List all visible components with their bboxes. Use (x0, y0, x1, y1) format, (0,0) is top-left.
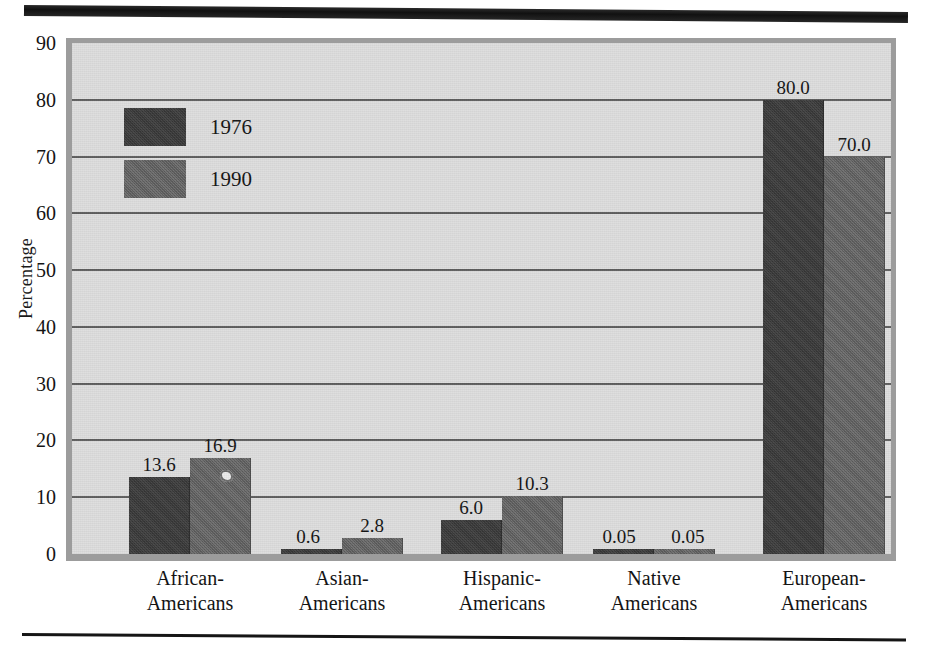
bar-value-label: 2.8 (360, 516, 384, 535)
legend-label-1990: 1990 (210, 169, 252, 190)
category-label-line-1: Asian- (252, 566, 432, 591)
legend-swatch-1976 (124, 108, 186, 146)
bar: 6.0 (441, 520, 502, 554)
category-label-line-1: European- (734, 566, 914, 591)
bar: 13.6 (129, 477, 190, 554)
bar: 10.3 (502, 496, 563, 554)
y-axis-tick-label: 80 (4, 90, 56, 110)
bar: 0.05 (593, 549, 654, 554)
plot-area: 13.616.90.62.86.010.30.050.0580.070.0 19… (72, 43, 891, 554)
y-axis-tick-label: 40 (4, 317, 56, 337)
bar: 70.0 (824, 157, 885, 554)
x-axis-category-label: Asian-Americans (252, 566, 432, 616)
category-label-line-1: Native (564, 566, 744, 591)
y-axis-tick-label: 60 (4, 203, 56, 223)
x-axis-category-labels: African-AmericansAsian-AmericansHispanic… (66, 566, 896, 626)
legend-swatch-1990 (124, 160, 186, 198)
legend-item-1976: 1976 (124, 101, 252, 153)
plot-frame: 13.616.90.62.86.010.30.050.0580.070.0 19… (66, 38, 896, 561)
bar-value-label: 6.0 (459, 498, 483, 517)
bar: 0.05 (654, 549, 715, 554)
bar-value-label: 0.6 (296, 527, 320, 546)
bar-value-label: 13.6 (142, 455, 175, 474)
bar-value-label: 16.9 (203, 436, 236, 455)
bar-value-label: 80.0 (776, 78, 809, 97)
y-axis-tick-label: 70 (4, 147, 56, 167)
y-axis-tick-label: 20 (4, 430, 56, 450)
x-axis-category-label: NativeAmericans (564, 566, 744, 616)
y-axis-tick-label: 50 (4, 260, 56, 280)
bar-value-label: 0.05 (671, 527, 704, 546)
y-axis-tick-label: 30 (4, 374, 56, 394)
legend-label-1976: 1976 (210, 117, 252, 138)
y-axis-tick-label: 0 (4, 544, 56, 564)
bar-value-label: 10.3 (515, 474, 548, 493)
category-label-line-2: Americans (564, 591, 744, 616)
page-canvas: Percentage 0102030405060708090 13.616.90… (0, 0, 928, 648)
x-axis-category-label: European-Americans (734, 566, 914, 616)
category-label-line-2: Americans (252, 591, 432, 616)
bar: 16.9 (190, 458, 251, 554)
bar-value-label: 70.0 (837, 135, 870, 154)
y-axis-tick-label: 10 (4, 487, 56, 507)
y-axis-tick-label: 90 (4, 33, 56, 53)
category-label-line-2: Americans (734, 591, 914, 616)
bar: 80.0 (763, 100, 824, 554)
bar-value-label: 0.05 (602, 527, 635, 546)
legend-item-1990: 1990 (124, 153, 252, 205)
scan-artifact-speck (220, 470, 233, 482)
bar: 0.6 (281, 549, 342, 554)
legend: 1976 1990 (124, 101, 252, 205)
bar-chart: Percentage 0102030405060708090 13.616.90… (0, 0, 928, 648)
bar: 2.8 (342, 538, 403, 554)
